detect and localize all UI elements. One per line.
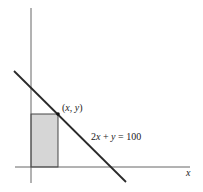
diagram-canvas: (x, y) 2x + y = 100 x <box>0 0 203 192</box>
point-marker <box>56 112 60 116</box>
point-label: (x, y) <box>62 102 83 114</box>
x-axis-label: x <box>185 167 191 178</box>
equation-label: 2x + y = 100 <box>91 131 141 142</box>
shaded-rectangle <box>31 114 58 167</box>
